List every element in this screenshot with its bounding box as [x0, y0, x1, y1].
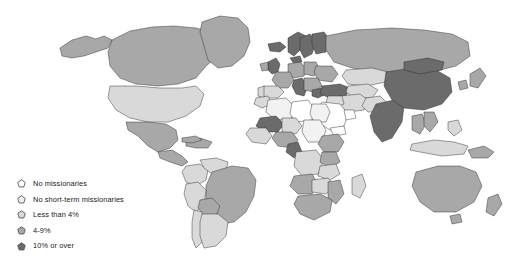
legend-label-no-missionaries: No missionaries: [33, 180, 87, 187]
region-tasmania[interactable]: [450, 214, 462, 224]
legend-swatch-less-than-4: [17, 210, 26, 219]
legend-swatch-10-or-over: [17, 242, 26, 251]
legend-item-10-or-over[interactable]: 10% or over: [17, 238, 167, 254]
region-portugal[interactable]: [258, 86, 264, 98]
legend-label-less-than-4: Less than 4%: [33, 211, 79, 218]
legend-label-no-short-term-missionaries: No short-term missionaries: [33, 196, 124, 203]
region-gulf-states[interactable]: [344, 110, 356, 120]
region-south-korea[interactable]: [458, 80, 468, 90]
legend-label-10-or-over: 10% or over: [33, 242, 74, 249]
legend-swatch-no-short-term-missionaries: [17, 195, 26, 204]
legend-item-no-short-term-missionaries[interactable]: No short-term missionaries: [17, 192, 167, 208]
legend-swatch-4-to-9: [17, 226, 26, 235]
map-legend: No missionaries No short-term missionari…: [17, 176, 167, 254]
world-map-figure: No missionaries No short-term missionari…: [0, 0, 516, 260]
legend-item-no-missionaries[interactable]: No missionaries: [17, 176, 167, 192]
legend-item-less-than-4[interactable]: Less than 4%: [17, 207, 167, 223]
legend-item-4-to-9[interactable]: 4-9%: [17, 223, 167, 239]
region-egypt[interactable]: [310, 104, 330, 122]
legend-swatch-no-missionaries: [17, 179, 26, 188]
legend-label-4-to-9: 4-9%: [33, 227, 51, 234]
